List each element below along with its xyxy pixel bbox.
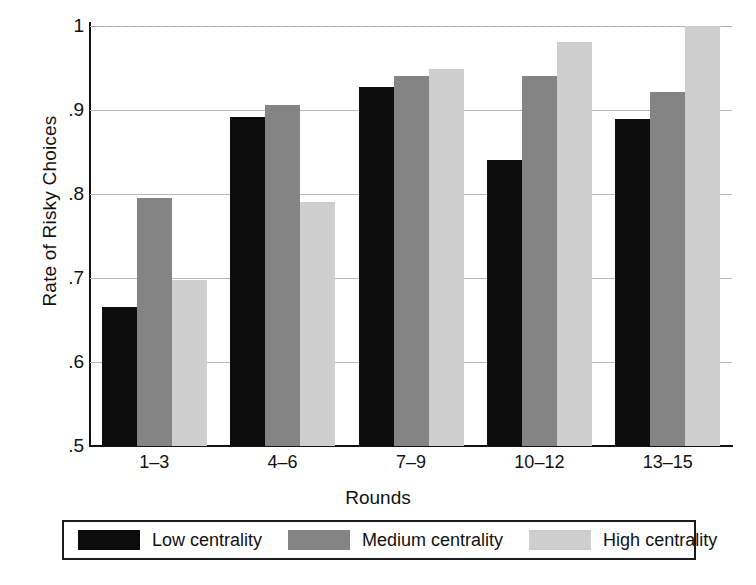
chart-figure: Rate of Risky Choices .5.6.7.8.91 1–34–6… xyxy=(0,0,756,585)
bar-high xyxy=(172,280,207,446)
bar-medium xyxy=(265,105,300,446)
legend-label: Low centrality xyxy=(152,530,262,551)
bar-low xyxy=(615,119,650,446)
y-axis-tick-label: .8 xyxy=(38,183,84,205)
chart-legend: Low centralityMedium centralityHigh cent… xyxy=(62,520,696,560)
legend-label: Medium centrality xyxy=(362,530,503,551)
bar-low xyxy=(102,307,137,446)
legend-entry: Low centrality xyxy=(78,530,262,551)
bar-group xyxy=(230,26,335,446)
bar-low xyxy=(230,117,265,446)
x-axis-tick-label: 13–15 xyxy=(643,452,693,473)
y-axis-tick-label: .6 xyxy=(38,351,84,373)
bar-high xyxy=(300,202,335,446)
legend-swatch-medium xyxy=(288,530,350,550)
x-axis-tick-label: 10–12 xyxy=(514,452,564,473)
x-axis-tick-label: 7–9 xyxy=(396,452,426,473)
bar-high xyxy=(557,42,592,446)
bar-medium xyxy=(650,92,685,446)
x-axis-tick-label: 4–6 xyxy=(268,452,298,473)
bar-low xyxy=(487,160,522,446)
bar-group xyxy=(359,26,464,446)
bar-medium xyxy=(522,76,557,446)
y-axis-tick-label: 1 xyxy=(38,15,84,37)
y-axis-tick-label: .5 xyxy=(38,435,84,457)
legend-swatch-high xyxy=(529,530,591,550)
bar-high xyxy=(685,26,720,446)
plot-area xyxy=(90,26,732,446)
legend-entry: Medium centrality xyxy=(288,530,503,551)
bar-group xyxy=(487,26,592,446)
bar-high xyxy=(429,69,464,446)
bar-low xyxy=(359,87,394,446)
bar-medium xyxy=(394,76,429,446)
x-axis-title: Rounds xyxy=(0,487,756,509)
bar-medium xyxy=(137,198,172,446)
bar-group xyxy=(102,26,207,446)
y-axis-tick-label: .9 xyxy=(38,99,84,121)
legend-swatch-low xyxy=(78,530,140,550)
legend-label: High centrality xyxy=(603,530,717,551)
plot-inner xyxy=(90,26,732,446)
bar-group xyxy=(615,26,720,446)
legend-entry: High centrality xyxy=(529,530,717,551)
y-axis-tick-label: .7 xyxy=(38,267,84,289)
x-axis-tick-label: 1–3 xyxy=(139,452,169,473)
